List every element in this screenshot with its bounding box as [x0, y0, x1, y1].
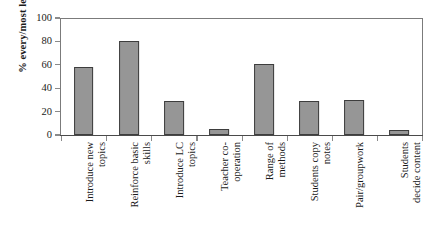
x-axis-label-line2: decide content [411, 142, 423, 232]
bar[interactable] [74, 67, 94, 135]
bar-slot [242, 18, 287, 135]
bar-chart: % every/most lessons 100806040200 Introd… [0, 0, 447, 232]
bar[interactable] [299, 101, 319, 135]
y-tick-label: 100 [26, 13, 52, 23]
x-tick-mark [242, 136, 243, 141]
bar-slot [332, 18, 377, 135]
bar-slot [196, 18, 241, 135]
x-tick-mark [196, 136, 197, 141]
bar[interactable] [254, 64, 274, 135]
bar[interactable] [164, 101, 184, 135]
x-tick-mark [422, 136, 423, 141]
x-axis-label-line1: Students [399, 142, 411, 232]
bar-slot [151, 18, 196, 135]
y-tick-label: 80 [26, 36, 52, 46]
y-tick-label: 60 [26, 60, 52, 70]
x-tick-mark [287, 136, 288, 141]
x-tick-mark [151, 136, 152, 141]
bar-slot [377, 18, 422, 135]
x-tick-mark [332, 136, 333, 141]
y-tick-label: 40 [26, 83, 52, 93]
bar[interactable] [344, 100, 364, 135]
x-axis-label-text: Studentsdecide content [399, 142, 422, 232]
y-tick-label: 0 [26, 130, 52, 140]
x-tick-mark [377, 136, 378, 141]
plot-area [61, 18, 422, 135]
bar-slot [287, 18, 332, 135]
x-axis-label: Studentsdecide content [353, 142, 445, 176]
x-tick-mark [61, 136, 62, 141]
bar-slot [106, 18, 151, 135]
bar-slot [61, 18, 106, 135]
x-tick-mark [106, 136, 107, 141]
y-tick-label: 20 [26, 107, 52, 117]
bar[interactable] [209, 129, 229, 135]
bar[interactable] [119, 41, 139, 135]
bar[interactable] [390, 130, 410, 135]
